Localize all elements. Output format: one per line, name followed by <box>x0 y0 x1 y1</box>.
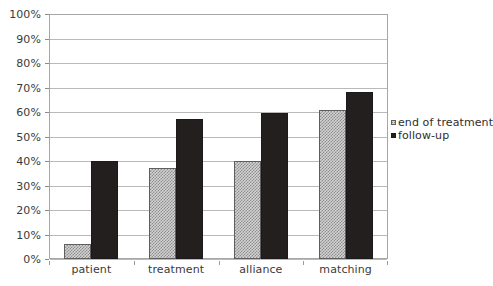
y-tick-label: 90% <box>16 32 41 45</box>
y-tick-label: 0% <box>23 253 41 266</box>
x-tick-mark <box>134 261 135 265</box>
x-tick-mark <box>303 261 304 265</box>
gridline <box>50 186 387 187</box>
legend-label: follow-up <box>398 129 449 142</box>
legend-swatch-icon <box>391 133 396 138</box>
y-tick-label: 80% <box>16 57 41 70</box>
plot-area <box>49 14 388 259</box>
legend-swatch-icon <box>391 120 396 125</box>
y-tick-label: 10% <box>16 228 41 241</box>
y-tick-mark <box>45 259 49 260</box>
y-tick-label: 70% <box>16 81 41 94</box>
gridline <box>50 161 387 162</box>
legend: end of treatmentfollow-up <box>391 116 492 142</box>
x-axis: patienttreatmentalliancematching <box>49 261 388 285</box>
gridline <box>50 88 387 89</box>
x-tick-mark <box>219 261 220 265</box>
gridline <box>50 63 387 64</box>
x-tick-mark <box>387 261 388 265</box>
y-tick-label: 100% <box>9 8 41 21</box>
legend-label: end of treatment <box>398 116 493 129</box>
x-tick-label: treatment <box>148 263 204 276</box>
gridline <box>50 39 387 40</box>
legend-item[interactable]: end of treatment <box>391 116 492 129</box>
y-axis: 0%10%20%30%40%50%60%70%80%90%100% <box>0 0 45 286</box>
gridline <box>50 235 387 236</box>
gridline <box>50 259 387 260</box>
gridline <box>50 137 387 138</box>
legend-item[interactable]: follow-up <box>391 129 492 142</box>
x-tick-label: matching <box>319 263 372 276</box>
x-tick-mark <box>49 261 50 265</box>
y-tick-label: 50% <box>16 130 41 143</box>
gridline <box>50 210 387 211</box>
y-tick-label: 60% <box>16 106 41 119</box>
y-tick-label: 40% <box>16 155 41 168</box>
y-tick-label: 30% <box>16 179 41 192</box>
y-tick-label: 20% <box>16 204 41 217</box>
x-tick-label: alliance <box>239 263 282 276</box>
gridline <box>50 112 387 113</box>
x-tick-label: patient <box>71 263 111 276</box>
